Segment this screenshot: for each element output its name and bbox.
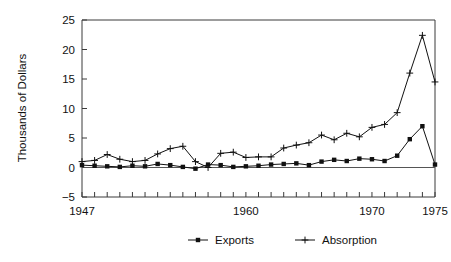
datapoint-exports-1952 bbox=[143, 164, 147, 168]
datapoint-exports-1969 bbox=[357, 156, 361, 160]
datapoint-exports-1963 bbox=[282, 162, 286, 166]
datapoint-absorption-1952 bbox=[142, 157, 149, 164]
x-axis-tick-labels: 1947196019701975 bbox=[69, 205, 448, 217]
legend-label-exports: Exports bbox=[215, 234, 254, 246]
x-tick-label-1947: 1947 bbox=[69, 205, 95, 217]
datapoint-absorption-1964 bbox=[293, 142, 300, 149]
datapoint-absorption-1974 bbox=[419, 32, 426, 39]
y-tick-label-20: 20 bbox=[62, 44, 75, 56]
x-tick-label-1960: 1960 bbox=[233, 205, 259, 217]
datapoint-exports-1973 bbox=[408, 137, 412, 141]
y-tick-label-15: 15 bbox=[62, 73, 75, 85]
datapoint-exports-1966 bbox=[319, 159, 323, 163]
datapoint-absorption-1960 bbox=[242, 154, 249, 161]
x-tick-label-1970: 1970 bbox=[359, 205, 385, 217]
datapoint-absorption-1959 bbox=[230, 149, 237, 156]
legend-item-absorption[interactable]: Absorption bbox=[295, 234, 377, 246]
series-line-absorption bbox=[82, 35, 435, 167]
datapoint-absorption-1975 bbox=[432, 79, 439, 86]
chart-container: Thousands of Dollars −50510152025 194719… bbox=[0, 0, 451, 262]
datapoint-exports-1960 bbox=[244, 164, 248, 168]
series-absorption bbox=[79, 32, 439, 171]
datapoint-exports-1953 bbox=[155, 162, 159, 166]
datapoint-exports-1974 bbox=[420, 124, 424, 128]
y-tick-label-10: 10 bbox=[62, 103, 75, 115]
datapoint-absorption-1966 bbox=[318, 132, 325, 139]
datapoint-exports-1959 bbox=[231, 165, 235, 169]
datapoint-exports-1955 bbox=[181, 165, 185, 169]
datapoint-exports-1972 bbox=[395, 154, 399, 158]
legend-label-absorption: Absorption bbox=[322, 234, 377, 246]
datapoint-absorption-1962 bbox=[268, 153, 275, 160]
datapoint-exports-1962 bbox=[269, 162, 273, 166]
datapoint-absorption-1949 bbox=[104, 151, 111, 158]
datapoint-absorption-1948 bbox=[91, 157, 98, 164]
datapoint-absorption-1951 bbox=[129, 158, 136, 165]
y-axis-tick-labels: −50510152025 bbox=[62, 14, 75, 203]
datapoint-exports-1968 bbox=[345, 159, 349, 163]
data-series-layer bbox=[79, 32, 439, 171]
datapoint-exports-1970 bbox=[370, 157, 374, 161]
datapoint-exports-1954 bbox=[168, 163, 172, 167]
datapoint-absorption-1963 bbox=[280, 145, 287, 152]
datapoint-absorption-1947 bbox=[79, 158, 86, 165]
datapoint-absorption-1950 bbox=[116, 156, 123, 163]
y-tick-label-25: 25 bbox=[62, 14, 75, 26]
axis-tick-marks bbox=[82, 20, 435, 197]
datapoint-absorption-1968 bbox=[343, 130, 350, 137]
y-tick-label--5: −5 bbox=[62, 191, 75, 203]
datapoint-exports-1949 bbox=[105, 164, 109, 168]
datapoint-exports-1964 bbox=[294, 161, 298, 165]
datapoint-exports-1975 bbox=[433, 162, 437, 166]
y-axis-title: Thousands of Dollars bbox=[16, 53, 28, 162]
datapoint-absorption-1967 bbox=[331, 136, 338, 143]
x-tick-label-1975: 1975 bbox=[422, 205, 448, 217]
datapoint-exports-1965 bbox=[307, 163, 311, 167]
datapoint-exports-1967 bbox=[332, 158, 336, 162]
datapoint-exports-1971 bbox=[382, 159, 386, 163]
line-chart: Thousands of Dollars −50510152025 194719… bbox=[0, 0, 451, 262]
y-tick-label-0: 0 bbox=[69, 162, 75, 174]
datapoint-exports-1958 bbox=[218, 163, 222, 167]
plot-frame bbox=[82, 20, 435, 197]
legend-item-exports[interactable]: Exports bbox=[188, 234, 254, 246]
chart-legend: ExportsAbsorption bbox=[188, 234, 377, 246]
datapoint-exports-1950 bbox=[118, 165, 122, 169]
y-tick-label-5: 5 bbox=[69, 132, 75, 144]
y-axis-title-group: Thousands of Dollars bbox=[16, 53, 28, 162]
datapoint-exports-1961 bbox=[256, 164, 260, 168]
datapoint-absorption-1965 bbox=[306, 139, 313, 146]
legend-marker-absorption bbox=[302, 237, 309, 244]
datapoint-exports-1948 bbox=[92, 164, 96, 168]
datapoint-absorption-1953 bbox=[154, 151, 161, 158]
datapoint-absorption-1954 bbox=[167, 145, 174, 152]
datapoint-exports-1956 bbox=[193, 166, 197, 170]
datapoint-absorption-1961 bbox=[255, 153, 262, 160]
series-line-exports bbox=[82, 126, 435, 168]
legend-marker-exports bbox=[196, 238, 200, 242]
series-exports bbox=[80, 124, 437, 171]
datapoint-absorption-1973 bbox=[406, 70, 413, 77]
